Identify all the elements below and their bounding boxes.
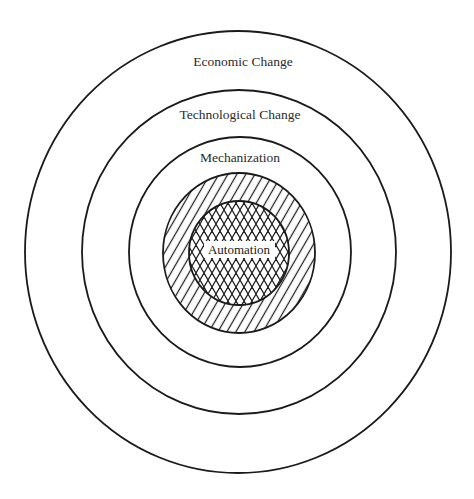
label-automation: Automation (208, 242, 271, 257)
label-technological-change: Technological Change (180, 107, 301, 122)
core-automation: Automation (189, 201, 289, 305)
label-mechanization: Mechanization (200, 150, 280, 165)
label-economic-change: Economic Change (193, 54, 292, 69)
concentric-circles-diagram: Economic Change Technological Change Mec… (0, 0, 474, 499)
